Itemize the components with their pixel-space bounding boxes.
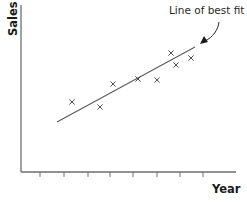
curved-arrow-icon xyxy=(205,22,219,41)
annotation-label: Line of best fit xyxy=(169,4,244,16)
x-marker-icon xyxy=(97,104,102,109)
data-points xyxy=(69,50,193,109)
annotation-arrow xyxy=(200,22,219,44)
scatter-chart: Line of best fit Year Sales xyxy=(0,0,247,204)
y-axis-label: Sales xyxy=(6,1,20,36)
x-marker-icon xyxy=(188,55,193,60)
x-axis-label: Year xyxy=(211,182,241,196)
x-marker-icon xyxy=(154,77,159,82)
line-of-best-fit xyxy=(57,47,195,122)
x-marker-icon xyxy=(168,50,173,55)
axes xyxy=(21,5,236,177)
x-marker-icon xyxy=(173,62,178,67)
x-marker-icon xyxy=(110,81,115,86)
x-axis-ticks xyxy=(40,172,203,177)
x-marker-icon xyxy=(69,99,74,104)
